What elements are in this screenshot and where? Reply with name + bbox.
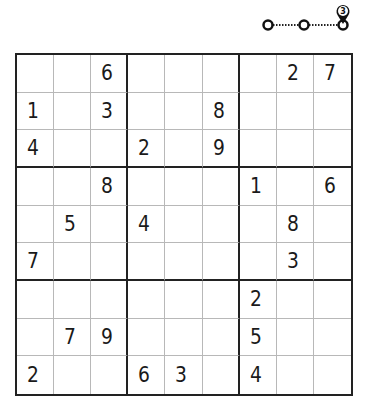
sudoku-cell-r8c6[interactable] xyxy=(203,319,240,357)
given-digit: 8 xyxy=(287,213,299,235)
given-digit: 3 xyxy=(101,100,113,122)
given-digit: 4 xyxy=(250,364,262,386)
sudoku-cell-r6c2[interactable] xyxy=(54,243,91,281)
sudoku-cell-r9c2[interactable] xyxy=(54,356,91,394)
sudoku-grid: 6271384298165487327952634 xyxy=(15,53,353,396)
sudoku-cell-r3c5[interactable] xyxy=(165,130,202,168)
sudoku-cell-r6c4[interactable] xyxy=(128,243,165,281)
given-digit: 4 xyxy=(138,213,150,235)
sudoku-cell-r9c5: 3 xyxy=(165,356,202,394)
sudoku-cell-r1c5[interactable] xyxy=(165,55,202,93)
given-digit: 1 xyxy=(250,175,262,197)
given-digit: 2 xyxy=(250,288,262,310)
given-digit: 2 xyxy=(287,62,299,84)
sudoku-cell-r9c6[interactable] xyxy=(203,356,240,394)
sudoku-cell-r2c4[interactable] xyxy=(128,93,165,131)
sudoku-cell-r1c2[interactable] xyxy=(54,55,91,93)
sudoku-cell-r8c4[interactable] xyxy=(128,319,165,357)
sudoku-cell-r7c2[interactable] xyxy=(54,281,91,319)
sudoku-cell-r4c6[interactable] xyxy=(203,168,240,206)
sudoku-cell-r9c7: 4 xyxy=(240,356,277,394)
sudoku-cell-r4c4[interactable] xyxy=(128,168,165,206)
sudoku-cell-r9c3[interactable] xyxy=(91,356,128,394)
sudoku-cell-r2c5[interactable] xyxy=(165,93,202,131)
sudoku-cell-r9c9[interactable] xyxy=(314,356,351,394)
sudoku-cell-r5c1[interactable] xyxy=(17,206,54,244)
sudoku-cell-r6c8: 3 xyxy=(277,243,314,281)
sudoku-cell-r8c3: 9 xyxy=(91,319,128,357)
sudoku-cell-r2c8[interactable] xyxy=(277,93,314,131)
progress-node-1 xyxy=(264,21,273,30)
given-digit: 9 xyxy=(213,137,225,159)
sudoku-cell-r4c8[interactable] xyxy=(277,168,314,206)
sudoku-cell-r4c3: 8 xyxy=(91,168,128,206)
sudoku-cell-r3c6: 9 xyxy=(203,130,240,168)
sudoku-cell-r3c1: 4 xyxy=(17,130,54,168)
given-digit: 8 xyxy=(213,100,225,122)
sudoku-cell-r5c3[interactable] xyxy=(91,206,128,244)
sudoku-cell-r5c5[interactable] xyxy=(165,206,202,244)
sudoku-cell-r7c8[interactable] xyxy=(277,281,314,319)
sudoku-cell-r3c4: 2 xyxy=(128,130,165,168)
svg-text:3: 3 xyxy=(340,7,346,16)
sudoku-cell-r5c8: 8 xyxy=(277,206,314,244)
sudoku-cell-r6c9[interactable] xyxy=(314,243,351,281)
sudoku-cell-r4c1[interactable] xyxy=(17,168,54,206)
sudoku-cell-r1c7[interactable] xyxy=(240,55,277,93)
sudoku-cell-r1c4[interactable] xyxy=(128,55,165,93)
given-digit: 9 xyxy=(101,326,113,348)
sudoku-cell-r2c2[interactable] xyxy=(54,93,91,131)
sudoku-cell-r2c7[interactable] xyxy=(240,93,277,131)
given-digit: 5 xyxy=(250,326,262,348)
sudoku-cell-r7c6[interactable] xyxy=(203,281,240,319)
sudoku-cell-r6c5[interactable] xyxy=(165,243,202,281)
sudoku-cell-r3c2[interactable] xyxy=(54,130,91,168)
sudoku-cell-r9c8[interactable] xyxy=(277,356,314,394)
sudoku-cell-r8c5[interactable] xyxy=(165,319,202,357)
sudoku-cell-r5c9[interactable] xyxy=(314,206,351,244)
location-pin-icon: 3 xyxy=(337,5,350,24)
sudoku-cell-r3c8[interactable] xyxy=(277,130,314,168)
sudoku-cell-r1c9: 7 xyxy=(314,55,351,93)
sudoku-cell-r2c6: 8 xyxy=(203,93,240,131)
sudoku-cell-r1c3: 6 xyxy=(91,55,128,93)
sudoku-cell-r5c4: 4 xyxy=(128,206,165,244)
sudoku-cell-r3c3[interactable] xyxy=(91,130,128,168)
sudoku-cell-r4c7: 1 xyxy=(240,168,277,206)
sudoku-cell-r2c1: 1 xyxy=(17,93,54,131)
sudoku-cell-r8c1[interactable] xyxy=(17,319,54,357)
sudoku-cell-r8c8[interactable] xyxy=(277,319,314,357)
sudoku-cell-r7c4[interactable] xyxy=(128,281,165,319)
progress-node-2 xyxy=(300,21,309,30)
sudoku-cell-r1c6[interactable] xyxy=(203,55,240,93)
sudoku-cell-r6c3[interactable] xyxy=(91,243,128,281)
sudoku-cell-r8c7: 5 xyxy=(240,319,277,357)
sudoku-cell-r8c9[interactable] xyxy=(314,319,351,357)
sudoku-cell-r5c7[interactable] xyxy=(240,206,277,244)
sudoku-cell-r6c7[interactable] xyxy=(240,243,277,281)
sudoku-cell-r4c5[interactable] xyxy=(165,168,202,206)
sudoku-cell-r3c7[interactable] xyxy=(240,130,277,168)
sudoku-cell-r3c9[interactable] xyxy=(314,130,351,168)
given-digit: 7 xyxy=(64,326,76,348)
sudoku-cell-r7c5[interactable] xyxy=(165,281,202,319)
given-digit: 2 xyxy=(138,137,150,159)
sudoku-cell-r9c1: 2 xyxy=(17,356,54,394)
given-digit: 3 xyxy=(175,364,187,386)
given-digit: 7 xyxy=(324,62,336,84)
sudoku-cell-r4c9: 6 xyxy=(314,168,351,206)
sudoku-cell-r2c9[interactable] xyxy=(314,93,351,131)
sudoku-cell-r7c1[interactable] xyxy=(17,281,54,319)
sudoku-cell-r5c2: 5 xyxy=(54,206,91,244)
sudoku-cell-r6c1: 7 xyxy=(17,243,54,281)
sudoku-cell-r5c6[interactable] xyxy=(203,206,240,244)
sudoku-cell-r8c2: 7 xyxy=(54,319,91,357)
sudoku-cell-r7c3[interactable] xyxy=(91,281,128,319)
given-digit: 6 xyxy=(138,364,150,386)
sudoku-cell-r1c1[interactable] xyxy=(17,55,54,93)
sudoku-cell-r4c2[interactable] xyxy=(54,168,91,206)
sudoku-cell-r9c4: 6 xyxy=(128,356,165,394)
sudoku-cell-r6c6[interactable] xyxy=(203,243,240,281)
sudoku-cell-r2c3: 3 xyxy=(91,93,128,131)
sudoku-cell-r7c9[interactable] xyxy=(314,281,351,319)
